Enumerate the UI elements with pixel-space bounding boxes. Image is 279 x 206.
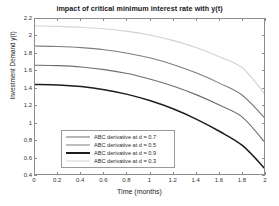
x-axis-tick-mark <box>34 18 35 21</box>
x-axis-tick-label: 1 <box>137 177 163 183</box>
y-axis-tick-mark <box>34 53 37 54</box>
y-axis-tick-label: 0.8 <box>2 137 32 143</box>
y-axis-tick-label: 1.6 <box>2 67 32 73</box>
x-axis-tick-label: 0.2 <box>44 177 70 183</box>
x-axis-tick-label: 0 <box>21 177 47 183</box>
legend-item[interactable]: ABC derivative at d = 0.3 <box>65 157 171 165</box>
x-axis-tick-label: 0.4 <box>67 177 93 183</box>
y-axis-tick-label: 1.2 <box>2 102 32 108</box>
y-axis-tick-mark <box>262 35 265 36</box>
x-axis-tick-label: 1.4 <box>183 177 209 183</box>
x-axis-tick-mark <box>242 172 243 175</box>
y-axis-tick-mark <box>262 175 265 176</box>
x-axis-tick-mark <box>126 172 127 175</box>
legend-item-label: ABC derivative at d = 0.9 <box>94 149 156 157</box>
x-axis-tick-label: 1.2 <box>160 177 186 183</box>
x-axis-tick-mark <box>34 172 35 175</box>
legend-line-swatch <box>65 133 91 141</box>
y-axis-tick-mark <box>34 105 37 106</box>
x-axis-tick-mark <box>219 172 220 175</box>
legend-item-label: ABC derivative at d = 0.5 <box>94 141 156 149</box>
y-axis-tick-mark <box>262 53 265 54</box>
y-axis-tick-labels: 0.40.60.811.21.41.61.822.2 <box>0 0 32 206</box>
legend-item[interactable]: ABC derivative at d = 0.9 <box>65 149 171 157</box>
y-axis-tick-mark <box>262 123 265 124</box>
y-axis-tick-label: 1 <box>2 120 32 126</box>
x-axis-tick-label: 0.6 <box>90 177 116 183</box>
x-axis-tick-mark <box>173 172 174 175</box>
x-axis-tick-label: 0.8 <box>113 177 139 183</box>
y-axis-tick-label: 2.2 <box>2 15 32 21</box>
y-axis-tick-label: 1.4 <box>2 85 32 91</box>
x-axis-tick-mark <box>219 18 220 21</box>
y-axis-tick-label: 1.8 <box>2 50 32 56</box>
legend-item-label: ABC derivative at d = 0.3 <box>94 157 156 165</box>
legend-line-swatch <box>65 157 91 165</box>
y-axis-tick-mark <box>262 70 265 71</box>
y-axis-tick-mark <box>34 70 37 71</box>
y-axis-tick-label: 2 <box>2 32 32 38</box>
x-axis-tick-mark <box>265 18 266 21</box>
x-axis-label: Time (months) <box>0 188 279 195</box>
x-axis-tick-mark <box>80 18 81 21</box>
x-axis-tick-mark <box>80 172 81 175</box>
x-axis-tick-mark <box>57 172 58 175</box>
y-axis-tick-mark <box>262 158 265 159</box>
x-axis-tick-label: 1.8 <box>229 177 255 183</box>
legend-line-swatch <box>65 141 91 149</box>
x-axis-tick-mark <box>242 18 243 21</box>
y-axis-tick-mark <box>34 140 37 141</box>
legend-item[interactable]: ABC derivative at d = 0.7 <box>65 133 171 141</box>
x-axis-tick-mark <box>265 172 266 175</box>
x-axis-tick-mark <box>126 18 127 21</box>
y-axis-tick-mark <box>34 88 37 89</box>
x-axis-tick-mark <box>150 18 151 21</box>
legend-item[interactable]: ABC derivative at d = 0.5 <box>65 141 171 149</box>
legend-line-swatch <box>65 149 91 157</box>
x-axis-tick-label: 1.6 <box>206 177 232 183</box>
chart-legend: ABC derivative at d = 0.7ABC derivative … <box>61 130 175 168</box>
y-axis-tick-mark <box>34 158 37 159</box>
y-axis-tick-mark <box>34 175 37 176</box>
chart-title: impact of critical minimum interest rate… <box>0 4 279 13</box>
legend-item-label: ABC derivative at d = 0.7 <box>94 133 156 141</box>
x-axis-tick-label: 2 <box>252 177 278 183</box>
x-axis-tick-mark <box>196 18 197 21</box>
y-axis-tick-mark <box>262 88 265 89</box>
x-axis-tick-mark <box>150 172 151 175</box>
y-axis-tick-label: 0.6 <box>2 155 32 161</box>
y-axis-tick-mark <box>262 105 265 106</box>
y-axis-tick-mark <box>34 123 37 124</box>
x-axis-tick-mark <box>57 18 58 21</box>
y-axis-tick-mark <box>262 140 265 141</box>
x-axis-tick-mark <box>196 172 197 175</box>
x-axis-tick-mark <box>103 172 104 175</box>
curve-d-0-5 <box>35 46 265 119</box>
y-axis-label: Investment Demand y(t) <box>9 6 16 126</box>
x-axis-tick-mark <box>173 18 174 21</box>
x-axis-tick-mark <box>103 18 104 21</box>
chart-figure: impact of critical minimum interest rate… <box>0 0 279 206</box>
y-axis-tick-mark <box>34 35 37 36</box>
